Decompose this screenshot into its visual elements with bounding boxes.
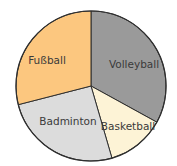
slice-label-basketball: Basketball [101,120,155,132]
pie-slices [16,11,166,161]
slice-label-badminton: Badminton [39,115,96,127]
slice-label-fussball: Fußball [28,54,66,66]
pie-chart: Fußball Volleyball Badminton Basketball [0,0,177,166]
slice-label-volleyball: Volleyball [109,58,159,70]
